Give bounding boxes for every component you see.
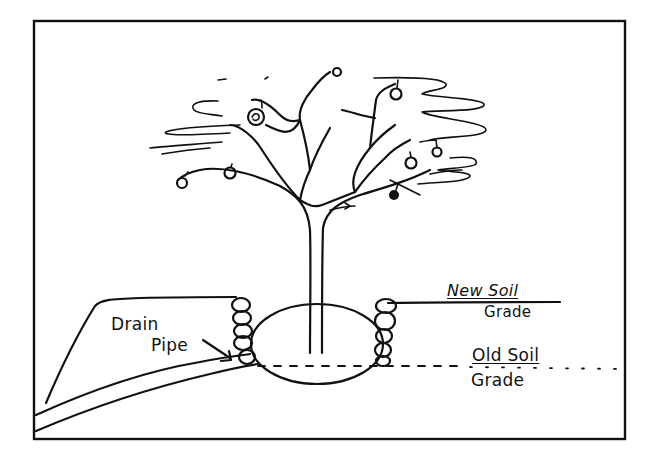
- new-soil-grade-line: [388, 302, 560, 303]
- old-soil-grade-label-line2: Grade: [471, 372, 524, 389]
- drain-pipe-label-line2: Pipe: [151, 337, 188, 354]
- diagram-canvas: [0, 0, 660, 457]
- root-ball: [251, 304, 383, 384]
- right-rock-wall: [375, 299, 396, 366]
- drain-pipe-label-line1: Drain: [111, 316, 159, 333]
- old-soil-grade-label-line1: Old Soil: [472, 347, 539, 364]
- new-soil-grade-label-line1: New Soil: [447, 283, 518, 299]
- old-soil-grade-line-extension: [470, 367, 620, 369]
- new-soil-grade-label-line2: Grade: [484, 305, 531, 320]
- frame: [34, 21, 625, 439]
- foliage-squiggles-left: [150, 77, 268, 154]
- left-soil-bank: [46, 297, 236, 403]
- drain-pipe: [36, 354, 258, 431]
